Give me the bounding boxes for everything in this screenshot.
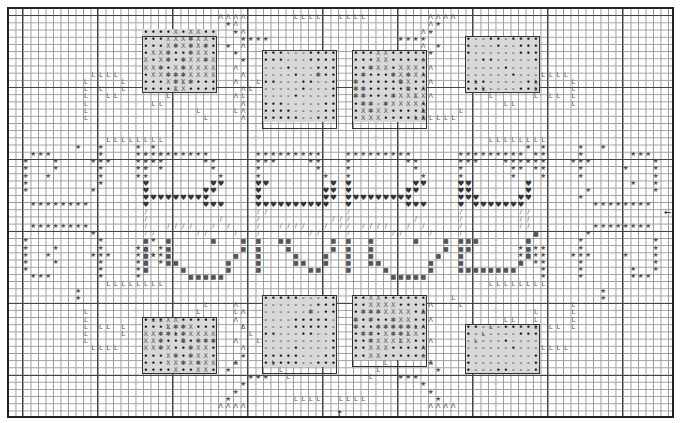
stitch-cell: L <box>127 281 135 288</box>
stitch-cell: ★ <box>585 158 593 165</box>
stitch-cell: • <box>472 86 480 93</box>
stitch-cell: / <box>202 230 210 237</box>
stitch-cell: Λ <box>232 317 240 324</box>
stitch-cell: ♥ <box>360 194 368 201</box>
stitch-cell: ■ <box>142 252 150 259</box>
stitch-cell: L <box>495 137 503 144</box>
stitch-cell: L <box>427 115 435 122</box>
stitch-cell: • <box>390 115 398 122</box>
stitch-cell: / <box>187 223 195 230</box>
stitch-cell: L <box>532 93 540 100</box>
stitch-cell: • <box>187 86 195 93</box>
stitch-cell: L <box>270 360 278 367</box>
stitch-cell: L <box>157 281 165 288</box>
stitch-cell: L <box>247 331 255 338</box>
stitch-cell: ♥ <box>315 201 323 208</box>
stitch-cell: ■ <box>510 266 518 273</box>
stitch-cell: ■ <box>397 273 405 280</box>
stitch-cell: L <box>547 345 555 352</box>
stitch-cell: L <box>97 324 105 331</box>
stitch-cell: ★ <box>247 36 255 43</box>
stitch-cell: ■ <box>255 237 263 244</box>
stitch-cell: ★ <box>397 36 405 43</box>
stitch-cell: ★ <box>165 151 173 158</box>
stitch-cell: • <box>517 86 525 93</box>
stitch-cell: ■ <box>442 237 450 244</box>
stitch-cell: ■ <box>457 266 465 273</box>
stitch-cell: ■ <box>240 245 248 252</box>
stitch-cell: ■ <box>532 230 540 237</box>
stitch-cell: ★ <box>630 223 638 230</box>
stitch-cell: L <box>120 281 128 288</box>
stitch-cell: ★ <box>232 389 240 396</box>
stitch-cell: ∘ <box>307 360 315 367</box>
stitch-cell: L <box>502 317 510 324</box>
stitch-cell: ■ <box>420 273 428 280</box>
stitch-cell: ★ <box>412 36 420 43</box>
stitch-cell: / <box>337 223 345 230</box>
stitch-cell: L <box>315 14 323 21</box>
stitch-cell: L <box>405 331 413 338</box>
stitch-cell: L <box>142 281 150 288</box>
stitch-cell: ♥ <box>495 201 503 208</box>
stitch-cell: ■ <box>465 237 473 244</box>
stitch-cell: ♥ <box>517 194 525 201</box>
stitch-cell: L <box>510 137 518 144</box>
stitch-cell: • <box>322 360 330 367</box>
stitch-cell: ★ <box>622 223 630 230</box>
stitch-cell: L <box>555 324 563 331</box>
stitch-cell: ♥ <box>525 180 533 187</box>
stitch-cell: L <box>195 108 203 115</box>
stitch-cell: ★ <box>67 223 75 230</box>
stitch-cell: Λ <box>217 403 225 410</box>
stitch-cell: L <box>487 324 495 331</box>
stitch-cell: ♥ <box>487 201 495 208</box>
stitch-cell: L <box>142 137 150 144</box>
stitch-cell: ♥ <box>525 187 533 194</box>
stitch-cell: • <box>390 353 398 360</box>
stitch-cell: • <box>352 115 360 122</box>
stitch-cell: ∘ <box>495 86 503 93</box>
stitch-cell: ★ <box>630 273 638 280</box>
stitch-cell: ★ <box>382 151 390 158</box>
stitch-cell: ★ <box>90 187 98 194</box>
stitch-cell: L <box>540 281 548 288</box>
stitch-cell: L <box>165 93 173 100</box>
stitch-cell: L <box>375 367 383 374</box>
stitch-cell: L <box>360 396 368 403</box>
stitch-cell: ■ <box>367 237 375 244</box>
stitch-cell: Λ <box>442 14 450 21</box>
stitch-cell: Λ <box>217 14 225 21</box>
stitch-cell: ★ <box>90 252 98 259</box>
stitch-cell: • <box>360 353 368 360</box>
stitch-cell: ■ <box>292 252 300 259</box>
stitch-cell: ★ <box>52 201 60 208</box>
stitch-cell: ■ <box>367 259 375 266</box>
stitch-cell: ■ <box>465 245 473 252</box>
stitch-cell: ■ <box>142 266 150 273</box>
stitch-cell: Λ <box>232 79 240 86</box>
stitch-cell: ★ <box>517 245 525 252</box>
stitch-cell: ★ <box>262 36 270 43</box>
stitch-cell: ★ <box>37 151 45 158</box>
stitch-cell: L <box>172 86 180 93</box>
stitch-cell: ■ <box>480 266 488 273</box>
stitch-cell: ■ <box>457 245 465 252</box>
stitch-cell: ∘ <box>510 367 518 374</box>
stitch-cell: L <box>397 79 405 86</box>
stitch-cell: ★ <box>255 36 263 43</box>
stitch-cell: • <box>315 360 323 367</box>
stitch-cell: ★ <box>360 151 368 158</box>
stitch-cell: L <box>480 86 488 93</box>
stitch-cell: ★ <box>532 259 540 266</box>
stitch-cell: ■ <box>307 266 315 273</box>
stitch-cell: / <box>165 223 173 230</box>
stitch-cell: ♥ <box>375 194 383 201</box>
stitch-cell: ♥ <box>210 201 218 208</box>
stitch-cell: ★ <box>427 389 435 396</box>
stitch-cell: L <box>555 345 563 352</box>
stitch-cell: ★ <box>52 223 60 230</box>
stitch-cell: • <box>270 115 278 122</box>
stitch-cell: Λ <box>232 65 240 72</box>
stitch-cell: ★ <box>30 273 38 280</box>
